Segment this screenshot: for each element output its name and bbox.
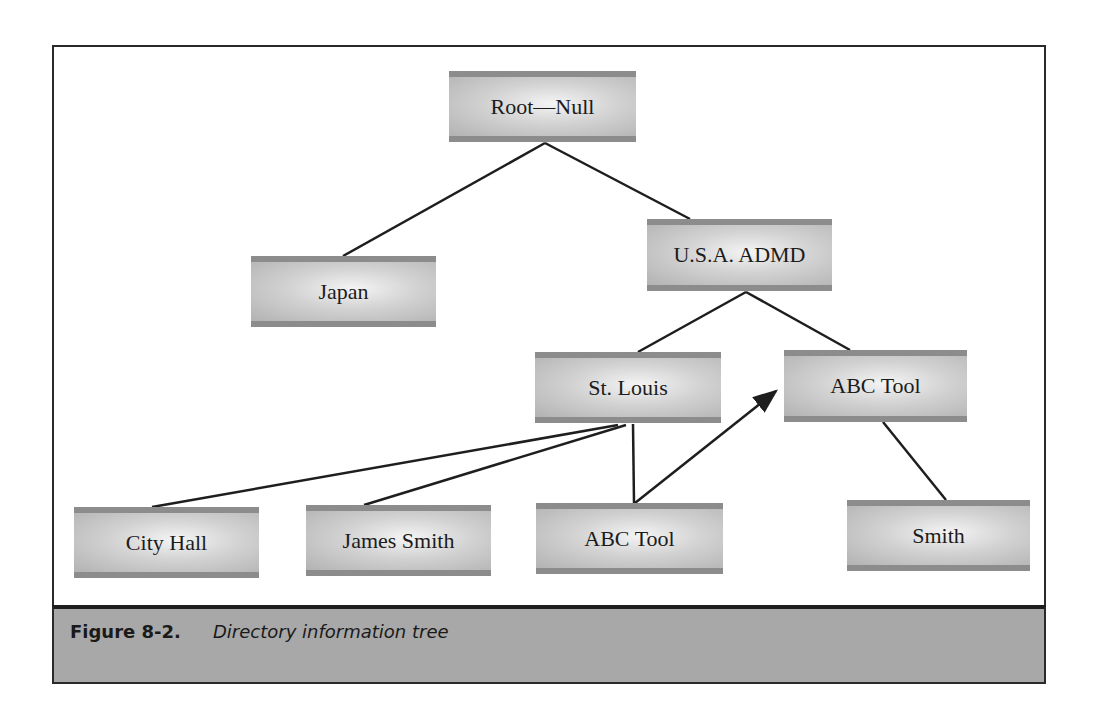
node-label: ABC Tool [584, 526, 674, 552]
node-label: Smith [912, 523, 965, 549]
edge-stlouis-jamessmith [364, 425, 626, 505]
node-label: City Hall [126, 530, 207, 556]
node-abc-tool-leaf: ABC Tool [536, 503, 723, 574]
node-smith: Smith [847, 500, 1030, 571]
node-label: James Smith [343, 528, 455, 554]
node-city-hall: City Hall [74, 507, 259, 578]
node-label: U.S.A. ADMD [673, 242, 805, 268]
node-james-smith: James Smith [306, 505, 491, 576]
node-japan: Japan [251, 256, 436, 327]
node-usa-admd: U.S.A. ADMD [647, 219, 832, 291]
node-abc-tool-top: ABC Tool [784, 350, 967, 422]
node-label: ABC Tool [830, 373, 920, 399]
node-label: Root—Null [491, 94, 595, 120]
node-st-louis: St. Louis [535, 352, 721, 423]
edge-usa-stlouis [638, 292, 746, 352]
edge-usa-abctool [746, 292, 850, 350]
edge-stlouis-cityhall [152, 425, 618, 507]
edge-abctool-smith [883, 422, 946, 500]
node-label: St. Louis [588, 375, 667, 401]
figure-caption: Directory information tree [213, 621, 449, 642]
node-root-null: Root—Null [449, 71, 636, 142]
edge-root-usa [545, 143, 690, 219]
edge-stlouis-abctool-leaf [633, 424, 634, 503]
caption-band: Figure 8-2. Directory information tree [52, 605, 1046, 684]
figure-number: Figure 8-2. [70, 621, 181, 642]
edge-root-japan [343, 143, 545, 256]
node-label: Japan [318, 279, 368, 305]
